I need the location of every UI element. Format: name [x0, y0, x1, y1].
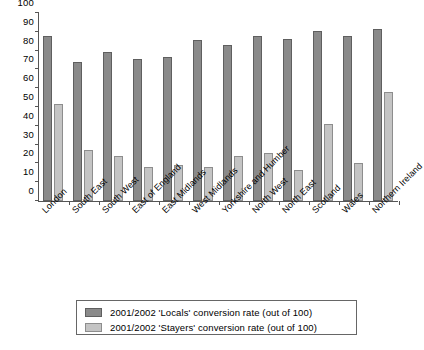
bar-group	[279, 13, 309, 201]
y-axis-tick-label: 50	[23, 91, 39, 102]
x-axis-tick-mark	[99, 201, 100, 205]
y-axis-tick-label: 100	[18, 0, 39, 8]
y-axis-tick-label: 70	[23, 53, 39, 64]
y-axis-tick-label: 30	[23, 128, 39, 139]
x-axis-tick-mark	[309, 201, 310, 205]
bar-locals	[373, 29, 383, 201]
legend-item-locals: 2001/2002 'Locals' conversion rate (out …	[85, 305, 356, 319]
plot-inner: 0102030405060708090100	[39, 13, 398, 201]
bar-group	[39, 13, 69, 201]
x-axis-tick-mark	[219, 201, 220, 205]
x-axis-tick-mark	[69, 201, 70, 205]
x-axis-tick-mark	[399, 201, 400, 205]
y-axis-tick-label: 40	[23, 109, 39, 120]
x-axis-tick-mark	[369, 201, 370, 205]
bar-locals	[43, 36, 53, 201]
legend-item-stayers: 2001/2002 'Stayers' conversion rate (out…	[85, 320, 356, 334]
y-axis-tick-label: 60	[23, 72, 39, 83]
legend-label-stayers: 2001/2002 'Stayers' conversion rate (out…	[110, 322, 317, 333]
legend-swatch-locals-icon	[85, 308, 102, 317]
bar-group	[99, 13, 129, 201]
y-axis-tick-label: 10	[23, 166, 39, 177]
bar-group	[369, 13, 399, 201]
x-axis-tick-mark	[159, 201, 160, 205]
x-axis-tick-mark	[279, 201, 280, 205]
bar-group	[129, 13, 159, 201]
bar-group	[69, 13, 99, 201]
bar-locals	[343, 36, 353, 201]
x-axis-tick-mark	[339, 201, 340, 205]
legend-swatch-stayers-icon	[85, 323, 102, 332]
y-axis-tick-label: 20	[23, 147, 39, 158]
y-axis-tick-label: 90	[23, 15, 39, 26]
bar-group	[309, 13, 339, 201]
x-axis-tick-mark	[129, 201, 130, 205]
chart-legend: 2001/2002 'Locals' conversion rate (out …	[76, 300, 357, 335]
x-axis-tick-mark	[249, 201, 250, 205]
bar-locals	[313, 31, 323, 201]
y-axis-tick-label: 0	[29, 185, 39, 196]
bar-locals	[73, 62, 83, 201]
plot-area: 0102030405060708090100	[38, 13, 398, 202]
y-axis-tick-label: 80	[23, 34, 39, 45]
legend-label-locals: 2001/2002 'Locals' conversion rate (out …	[110, 307, 312, 318]
x-axis-tick-mark	[189, 201, 190, 205]
bar-group	[339, 13, 369, 201]
